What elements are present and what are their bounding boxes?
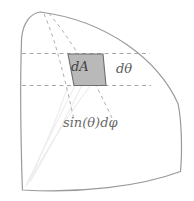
polar-increment-label: dθ (116, 62, 132, 75)
area-element-label: dA (71, 60, 89, 73)
figure-container: dA dθ sin(θ)dφ (0, 0, 194, 201)
spherical-sector-figure (0, 0, 194, 201)
faint-wedge-line (30, 85, 82, 182)
meridian-arc-left (44, 14, 74, 120)
azimuthal-arc-label: sin(θ)dφ (63, 116, 118, 129)
faint-wedge-line (26, 86, 68, 186)
sector-outline (21, 12, 182, 191)
faint-wedge-line (26, 86, 90, 186)
faint-wedge-lines (26, 84, 90, 186)
